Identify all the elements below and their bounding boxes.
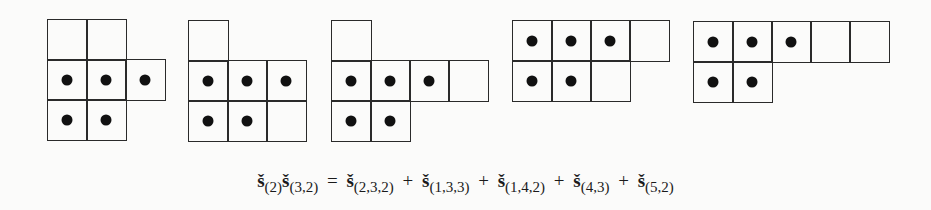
- dot-marker: [385, 115, 396, 126]
- diagram-cell: [448, 60, 489, 102]
- plus-sign: +: [554, 170, 565, 191]
- diagram-cell: [732, 61, 773, 103]
- diagram-cell: [693, 61, 734, 103]
- diagram-cell: [86, 99, 127, 141]
- dot-marker: [101, 74, 112, 85]
- diagram-cell: [732, 21, 773, 63]
- dot-marker: [527, 35, 538, 46]
- dot-marker: [566, 35, 577, 46]
- dot-marker: [708, 36, 719, 47]
- diagram-cell: [810, 21, 851, 63]
- rhs-term-5: š(5,2): [638, 170, 674, 191]
- dot-marker: [566, 75, 577, 86]
- rhs-term-4: š(4,3): [573, 170, 609, 191]
- diagram-cell: [551, 20, 592, 62]
- diagram-cell: [47, 19, 88, 61]
- diagram-cell: [188, 60, 229, 102]
- dot-marker: [281, 75, 292, 86]
- diagram-cell: [125, 59, 166, 101]
- diagram-cell: [266, 60, 307, 102]
- dot-marker: [203, 75, 214, 86]
- diagram-cell: [693, 21, 734, 63]
- dot-marker: [346, 115, 357, 126]
- diagram-cell: [227, 60, 268, 102]
- dot-marker: [747, 76, 758, 87]
- dot-marker: [101, 114, 112, 125]
- plus-sign: +: [618, 170, 629, 191]
- lhs-term-2: š(3,2): [282, 170, 318, 191]
- dot-marker: [786, 36, 797, 47]
- dot-marker: [140, 74, 151, 85]
- dot-marker: [242, 115, 253, 126]
- equation: š(2)š(3,2) = š(2,3,2) + š(1,3,3) + š(1,4…: [0, 170, 931, 196]
- diagram-cell: [629, 20, 670, 62]
- diagram-cell: [370, 60, 411, 102]
- diagram-cell: [86, 19, 127, 61]
- diagram-cell: [849, 21, 890, 63]
- diagram-cell: [331, 60, 372, 102]
- dot-marker: [346, 75, 357, 86]
- dot-marker: [424, 75, 435, 86]
- diagram-cell: [188, 100, 229, 142]
- plus-sign: +: [403, 170, 414, 191]
- diagram-cell: [188, 20, 229, 62]
- dot-marker: [242, 75, 253, 86]
- dot-marker: [385, 75, 396, 86]
- diagram-cell: [331, 100, 372, 142]
- diagram-cell: [512, 60, 553, 102]
- rhs-term-3: š(1,4,2): [498, 170, 545, 191]
- equals-sign: =: [327, 170, 338, 191]
- rhs-term-1: š(2,3,2): [346, 170, 393, 191]
- dot-marker: [605, 35, 616, 46]
- plus-sign: +: [478, 170, 489, 191]
- diagram-cell: [370, 100, 411, 142]
- dot-marker: [747, 36, 758, 47]
- diagram-cell: [266, 100, 307, 142]
- diagram-cell: [47, 59, 88, 101]
- diagram-cell: [227, 100, 268, 142]
- diagram-cell: [47, 99, 88, 141]
- dot-marker: [62, 74, 73, 85]
- diagram-cell: [512, 20, 553, 62]
- diagram-cell: [771, 21, 812, 63]
- dot-marker: [62, 114, 73, 125]
- dot-marker: [203, 115, 214, 126]
- dot-marker: [527, 75, 538, 86]
- dot-marker: [708, 76, 719, 87]
- lhs-term-1: š(2): [257, 170, 282, 191]
- rhs-term-2: š(1,3,3): [422, 170, 469, 191]
- diagram-cell: [590, 20, 631, 62]
- diagram-cell: [331, 20, 372, 62]
- diagram-cell: [551, 60, 592, 102]
- diagram-cell: [590, 60, 631, 102]
- diagram-cell: [86, 59, 127, 101]
- diagram-cell: [409, 60, 450, 102]
